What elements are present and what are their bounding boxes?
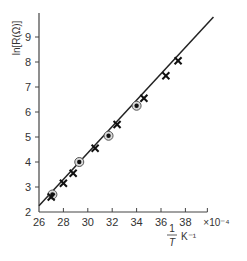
chart: 2345678926283032343638×10⁻⁴ ln[R(Ω)]1TK⁻… <box>0 0 247 261</box>
x-tick-label: 30 <box>82 216 94 228</box>
x-tick-label: 32 <box>106 216 118 228</box>
y-tick-label: 3 <box>25 181 31 193</box>
circle-marker-dot <box>134 104 138 108</box>
fit-line-path <box>39 17 213 206</box>
y-axis-label: ln[R(Ω)] <box>11 20 22 55</box>
x-label-numerator: 1 <box>169 223 175 234</box>
y-tick-label: 4 <box>25 156 31 168</box>
x-label-unit: K⁻¹ <box>181 231 197 242</box>
x-label-denominator: T <box>169 237 176 248</box>
circle-marker-dot <box>77 160 81 164</box>
circle-marker-dot <box>106 134 110 138</box>
y-tick-label: 6 <box>25 106 31 118</box>
y-tick-label: 9 <box>25 31 31 43</box>
data-markers <box>48 57 182 200</box>
x-tick-label: 36 <box>155 216 167 228</box>
x-tick-label: 26 <box>33 216 45 228</box>
y-tick-label: 2 <box>25 206 31 218</box>
fit-line <box>39 17 213 206</box>
y-tick-label: 7 <box>25 81 31 93</box>
x-tick-label: 28 <box>57 216 69 228</box>
x-tick-label: 34 <box>130 216 142 228</box>
x-scale-note: ×10⁻⁴ <box>203 217 229 228</box>
x-tick-label: 38 <box>179 216 191 228</box>
y-tick-label: 5 <box>25 131 31 143</box>
y-tick-label: 8 <box>25 56 31 68</box>
